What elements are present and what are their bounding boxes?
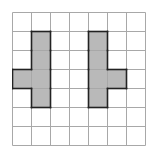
shaded-cell (13, 70, 32, 89)
shaded-cell (32, 32, 51, 51)
shaded-cell (89, 70, 108, 89)
shaded-cell (89, 51, 108, 70)
grid-diagram (12, 12, 147, 147)
shaded-cell (108, 70, 127, 89)
shaded-cell (32, 70, 51, 89)
shaded-cell (89, 89, 108, 108)
shaded-cell (32, 89, 51, 108)
shaded-cell (89, 32, 108, 51)
shaded-cell (32, 51, 51, 70)
